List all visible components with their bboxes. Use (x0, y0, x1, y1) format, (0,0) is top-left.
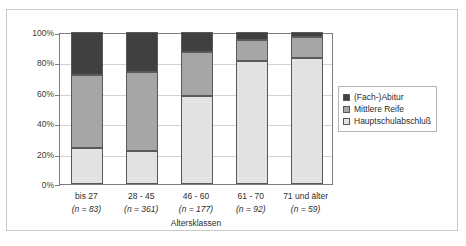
x-tick-sample-size: (n = 59) (272, 203, 340, 216)
legend-label: Mittlere Reife (354, 103, 404, 115)
bar-segment[interactable] (291, 37, 323, 58)
y-tick-label: 40% (37, 120, 54, 129)
bar-group[interactable] (126, 32, 158, 184)
legend-label: (Fach-)Abitur (354, 91, 404, 103)
legend-item[interactable]: (Fach-)Abitur (343, 91, 431, 103)
bar-segment[interactable] (71, 148, 103, 184)
x-axis-tick-labels: bis 27(n = 83)28 - 45(n = 361)46 - 60(n … (59, 190, 333, 220)
bar-segment[interactable] (181, 32, 213, 52)
x-tick-label-group: 71 und älter(n = 59) (272, 190, 340, 216)
bar-segment[interactable] (126, 151, 158, 184)
x-axis-title: Altersklassen (59, 218, 333, 228)
y-tick-label: 0% (42, 181, 54, 190)
y-tick-label: 100% (32, 29, 54, 38)
bar-segment[interactable] (181, 96, 213, 184)
bar-segment[interactable] (291, 58, 323, 184)
y-axis-tick-labels: 100%80%60%40%20%0% (19, 33, 54, 185)
legend-swatch-icon (343, 94, 350, 101)
bar-group[interactable] (71, 32, 103, 184)
y-tick-label: 60% (37, 90, 54, 99)
y-tick-label: 80% (37, 59, 54, 68)
legend-swatch-icon (343, 118, 350, 125)
y-axis-tick (55, 185, 60, 186)
y-tick-label: 20% (37, 151, 54, 160)
bar-segment[interactable] (181, 52, 213, 96)
bar-segment[interactable] (291, 32, 323, 37)
legend-item[interactable]: Hauptschulabschluß (343, 115, 431, 127)
bar-group[interactable] (236, 32, 268, 184)
plot-area (59, 33, 333, 185)
bar-segment[interactable] (71, 75, 103, 148)
bar-segment[interactable] (126, 72, 158, 151)
bar-group[interactable] (181, 32, 213, 184)
bar-segment[interactable] (126, 32, 158, 72)
legend-swatch-icon (343, 106, 350, 113)
x-tick-label: 71 und älter (272, 190, 340, 203)
chart-legend: (Fach-)AbiturMittlere ReifeHauptschulabs… (338, 86, 437, 132)
bar-segment[interactable] (236, 40, 268, 61)
chart-frame: 100%80%60%40%20%0% bis 27(n = 83)28 - 45… (6, 9, 458, 231)
bar-segment[interactable] (71, 32, 103, 75)
bar-segment[interactable] (236, 61, 268, 184)
y-axis-tick (55, 34, 60, 35)
bar-segment[interactable] (236, 32, 268, 40)
bar-group[interactable] (291, 32, 323, 184)
legend-item[interactable]: Mittlere Reife (343, 103, 431, 115)
legend-label: Hauptschulabschluß (354, 115, 431, 127)
